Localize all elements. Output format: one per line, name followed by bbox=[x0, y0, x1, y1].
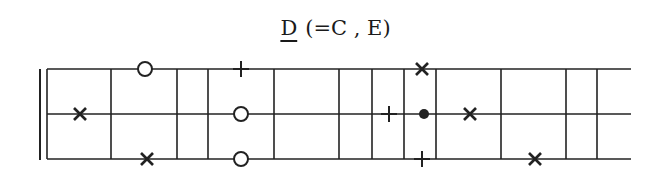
fretboard-lines bbox=[40, 69, 631, 160]
circle-marker-icon bbox=[234, 107, 248, 121]
plus-marker-icon bbox=[414, 151, 430, 167]
circle-marker-icon bbox=[138, 62, 152, 76]
filled-dot-marker-icon bbox=[419, 109, 429, 119]
fretboard-diagram bbox=[0, 0, 671, 185]
plus-marker-icon bbox=[233, 61, 249, 77]
plus-marker-icon bbox=[381, 106, 397, 122]
circle-marker-icon bbox=[234, 152, 248, 166]
